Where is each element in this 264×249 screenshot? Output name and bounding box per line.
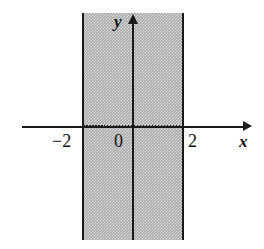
y-axis-label: y bbox=[114, 13, 122, 30]
coordinate-plane-figure: x y −2 0 2 bbox=[0, 0, 264, 249]
origin-tick-label: 0 bbox=[114, 132, 123, 150]
y-axis-arrowhead-icon bbox=[128, 14, 138, 24]
x-axis-label: x bbox=[239, 133, 248, 150]
y-axis-line bbox=[132, 22, 134, 240]
x-tick-label-pos2: 2 bbox=[188, 132, 197, 150]
x-tick-label-neg2: −2 bbox=[52, 132, 71, 150]
x-axis-arrowhead-icon bbox=[243, 121, 252, 131]
